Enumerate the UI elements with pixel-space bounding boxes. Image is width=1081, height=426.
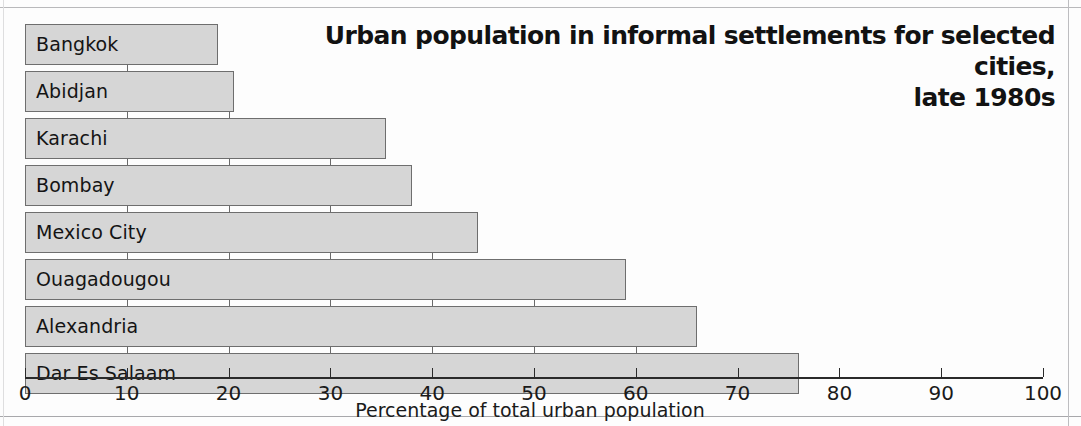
bar-category-label: Abidjan — [36, 71, 108, 112]
x-axis-tick — [636, 368, 637, 377]
x-axis-tick — [738, 368, 739, 377]
x-axis-tick — [1043, 368, 1044, 377]
x-axis-tick — [127, 368, 128, 377]
plot-area: BangkokAbidjanKarachiBombayMexico CityOu… — [0, 0, 1081, 426]
bar-category-label: Alexandria — [36, 306, 138, 347]
x-axis-title: Percentage of total urban population — [0, 399, 1060, 421]
x-axis-tick — [229, 368, 230, 377]
x-axis-tick — [432, 368, 433, 377]
x-axis-tick — [839, 368, 840, 377]
x-axis-tick — [941, 368, 942, 377]
x-axis-line — [25, 377, 1043, 379]
x-axis-tick — [534, 368, 535, 377]
bar-category-label: Mexico City — [36, 212, 147, 253]
bar-category-label: Bombay — [36, 165, 115, 206]
bar-category-label: Bangkok — [36, 24, 118, 65]
bar-category-label: Karachi — [36, 118, 108, 159]
bar-category-label: Ouagadougou — [36, 259, 171, 300]
chart-page: Urban population in informal settlements… — [0, 0, 1081, 426]
x-axis-tick — [330, 368, 331, 377]
x-axis-tick — [25, 368, 26, 377]
